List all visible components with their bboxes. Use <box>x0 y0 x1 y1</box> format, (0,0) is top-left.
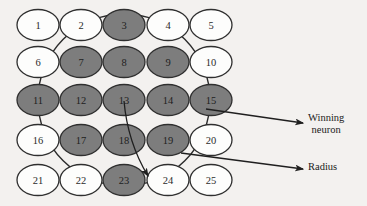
neuron-node: 14 <box>147 85 189 116</box>
som-neighborhood-diagram: 1234567891011121314151617181920212223242… <box>0 0 367 206</box>
neuron-node-label: 6 <box>35 57 40 68</box>
neuron-node-label: 20 <box>206 135 217 146</box>
neuron-node: 24 <box>147 165 189 196</box>
neuron-node: 20 <box>190 125 232 156</box>
neuron-node: 22 <box>60 165 102 196</box>
diagram-canvas: 1234567891011121314151617181920212223242… <box>0 0 367 206</box>
neuron-node-label: 21 <box>33 175 44 186</box>
neuron-node: 7 <box>60 47 102 78</box>
neuron-node: 18 <box>103 125 145 156</box>
neuron-node: 9 <box>147 47 189 78</box>
neuron-node: 12 <box>60 85 102 116</box>
neuron-node: 6 <box>17 47 59 78</box>
neuron-node-label: 16 <box>33 135 44 146</box>
neuron-node-label: 24 <box>163 175 174 186</box>
winning-neuron-callout-line2: neuron <box>312 124 341 135</box>
neuron-node: 25 <box>190 165 232 196</box>
neuron-node: 13 <box>103 85 145 116</box>
neuron-node-label: 17 <box>76 135 87 146</box>
neuron-node-label: 14 <box>163 95 174 106</box>
neuron-node-label: 1 <box>35 20 40 31</box>
neuron-node-label: 23 <box>119 175 130 186</box>
radius-callout-label: Radius <box>308 161 337 173</box>
neuron-node-label: 3 <box>121 20 126 31</box>
neuron-node-label: 15 <box>206 95 217 106</box>
radius-callout-line1: Radius <box>308 161 337 172</box>
neuron-node: 17 <box>60 125 102 156</box>
neuron-node-label: 4 <box>165 20 171 31</box>
neuron-node: 11 <box>17 85 59 116</box>
neuron-node-label: 5 <box>208 20 213 31</box>
neuron-node: 15 <box>190 85 232 116</box>
neuron-node-label: 7 <box>78 57 83 68</box>
winning-neuron-callout-label: Winningneuron <box>308 112 344 136</box>
neuron-node-label: 9 <box>165 57 170 68</box>
neuron-node-label: 22 <box>76 175 87 186</box>
neuron-node-label: 12 <box>76 95 87 106</box>
neuron-node: 3 <box>103 10 145 41</box>
winning-neuron-callout-line1: Winning <box>308 112 344 123</box>
neuron-node-label: 10 <box>206 57 217 68</box>
neuron-node-label: 8 <box>121 57 126 68</box>
neuron-node-label: 18 <box>119 135 130 146</box>
neuron-node: 5 <box>190 10 232 41</box>
neuron-node: 4 <box>147 10 189 41</box>
neuron-node: 2 <box>60 10 102 41</box>
neuron-node: 19 <box>147 125 189 156</box>
neuron-node: 23 <box>103 165 145 196</box>
neuron-node: 16 <box>17 125 59 156</box>
neuron-node-label: 11 <box>33 95 43 106</box>
neuron-node: 1 <box>17 10 59 41</box>
winning-neuron-leader-line <box>206 109 303 123</box>
neuron-node: 21 <box>17 165 59 196</box>
neuron-node-label: 25 <box>206 175 217 186</box>
neuron-node: 8 <box>103 47 145 78</box>
neuron-node-label: 2 <box>78 20 83 31</box>
neuron-node: 10 <box>190 47 232 78</box>
neuron-node-label: 19 <box>163 135 174 146</box>
